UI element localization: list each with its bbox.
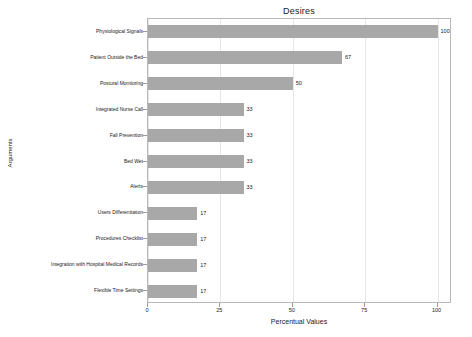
- bar-row: 33: [148, 174, 450, 200]
- bar-row: 17: [148, 252, 450, 278]
- y-tick-label: Bed Wet: [124, 157, 143, 165]
- bar: [148, 259, 197, 272]
- y-tick-mark: [143, 238, 147, 239]
- bar-value-label: 17: [197, 259, 206, 272]
- y-tick-mark: [143, 135, 147, 136]
- bar: [148, 103, 244, 116]
- bar-row: 33: [148, 97, 450, 123]
- y-tick-mark: [143, 186, 147, 187]
- x-tick-label: 25: [216, 307, 222, 313]
- x-tick-mark: [147, 303, 148, 307]
- x-tick-mark: [437, 303, 438, 307]
- bar: [148, 207, 197, 220]
- bar-value-label: 50: [293, 77, 302, 90]
- x-tick-mark: [219, 303, 220, 307]
- y-tick-label: Alerts: [130, 182, 143, 190]
- bar-row: 17: [148, 226, 450, 252]
- x-tick-label: 50: [289, 307, 295, 313]
- bar: [148, 51, 342, 64]
- chart-title: Desires: [147, 6, 451, 16]
- y-tick-label: Integration with Hospital Medical Record…: [51, 260, 143, 268]
- x-tick-mark: [364, 303, 365, 307]
- x-tick-label: 75: [361, 307, 367, 313]
- y-tick-label: Integrated Nurse Call: [96, 105, 143, 113]
- x-tick-label: 0: [145, 307, 148, 313]
- y-tick-mark: [143, 83, 147, 84]
- y-tick-label: Users Differentiation: [98, 208, 143, 216]
- bar-chart-figure: Desires Arguments 1006750333333331717171…: [0, 0, 472, 337]
- x-tick-mark: [292, 303, 293, 307]
- bar-value-label: 17: [197, 285, 206, 298]
- y-tick-mark: [143, 57, 147, 58]
- bar: [148, 77, 293, 90]
- y-tick-mark: [143, 290, 147, 291]
- x-axis-title: Percentual Values: [147, 318, 451, 325]
- bar-row: 100: [148, 19, 450, 45]
- bar-value-label: 33: [244, 103, 253, 116]
- y-tick-mark: [143, 212, 147, 213]
- y-tick-label: Fall Prevention: [110, 131, 143, 139]
- bar-value-label: 17: [197, 207, 206, 220]
- y-tick-mark: [143, 109, 147, 110]
- bar-value-label: 100: [438, 25, 450, 38]
- y-tick-label: Flexible Time Settings: [94, 286, 143, 294]
- y-tick-label: Patient Outside the Bed: [90, 53, 143, 61]
- bar-row: 33: [148, 149, 450, 175]
- bar: [148, 181, 244, 194]
- bar-value-label: 33: [244, 155, 253, 168]
- bar-row: 17: [148, 278, 450, 303]
- bar-value-label: 67: [342, 51, 351, 64]
- y-tick-label: Postural Monitoring: [100, 79, 143, 87]
- bar-value-label: 17: [197, 233, 206, 246]
- y-tick-mark: [143, 161, 147, 162]
- bar: [148, 233, 197, 246]
- bar-value-label: 33: [244, 181, 253, 194]
- bar: [148, 155, 244, 168]
- x-tick-label: 100: [432, 307, 441, 313]
- bar: [148, 285, 197, 298]
- bar-row: 17: [148, 200, 450, 226]
- plot-area: 10067503333333317171717: [147, 18, 451, 303]
- bar: [148, 25, 438, 38]
- bar: [148, 129, 244, 142]
- bar-row: 67: [148, 45, 450, 71]
- bar-value-label: 33: [244, 129, 253, 142]
- y-tick-label: Physiological Signals: [96, 27, 143, 35]
- y-tick-label: Procedures Checklist: [96, 234, 143, 242]
- bar-row: 33: [148, 123, 450, 149]
- y-tick-mark: [143, 31, 147, 32]
- bar-row: 50: [148, 71, 450, 97]
- y-axis-title: Arguments: [7, 123, 13, 183]
- y-tick-mark: [143, 264, 147, 265]
